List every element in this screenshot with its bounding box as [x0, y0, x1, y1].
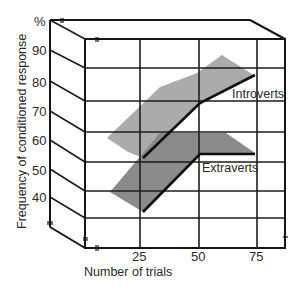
left-side-face [50, 20, 85, 248]
top-face [50, 20, 285, 39]
extraverts-label: Extraverts [202, 161, 258, 175]
y-unit-label: % [34, 14, 46, 29]
y-tick: 60 [32, 133, 46, 148]
y-tick: 50 [32, 163, 46, 178]
y-tick: 70 [32, 104, 46, 119]
y-tick-labels: % 90 80 70 60 50 40 [32, 14, 46, 205]
x-tick-labels: 25 50 75 [132, 249, 263, 264]
conditioning-chart: Introverts Extraverts % 90 80 70 60 50 4… [0, 0, 301, 292]
y-axis-title: Frequency of conditioned response [15, 34, 29, 229]
introverts-label: Introverts [232, 87, 284, 101]
y-tick: 90 [32, 43, 46, 58]
x-tick: 50 [191, 249, 205, 264]
x-axis-title: Number of trials [84, 265, 172, 279]
x-tick: 75 [249, 249, 263, 264]
y-tick: 80 [32, 75, 46, 90]
x-tick: 25 [132, 249, 146, 264]
y-tick: 40 [32, 190, 46, 205]
